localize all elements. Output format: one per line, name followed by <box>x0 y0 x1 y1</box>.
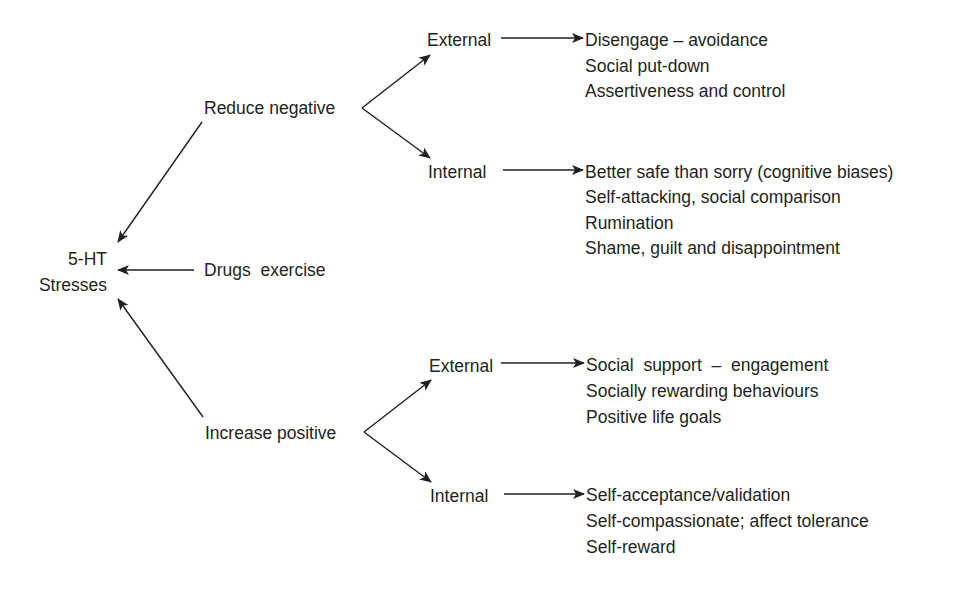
arrow-increase-to-external <box>364 380 431 432</box>
drugs-exercise-node: Drugs exercise <box>204 260 326 280</box>
reduce-external-item: Social put-down <box>585 56 710 76</box>
reduce-internal-node: Internal <box>428 162 486 182</box>
arrow-reduce-to-center <box>118 122 202 242</box>
arrow-reduce-to-internal <box>362 108 430 158</box>
reduce-external-item: Assertiveness and control <box>585 81 785 101</box>
increase-external-item: Social support – engagement <box>586 355 828 375</box>
increase-internal-item: Self-compassionate; affect tolerance <box>586 511 869 531</box>
reduce-internal-item: Self-attacking, social comparison <box>585 187 841 207</box>
arrow-increase-to-center <box>118 299 203 417</box>
increase-internal-node: Internal <box>430 486 488 506</box>
center-node-5ht: 5-HT <box>30 249 107 269</box>
increase-positive-node: Increase positive <box>205 423 336 443</box>
arrow-increase-to-internal <box>364 432 431 482</box>
increase-internal-item: Self-acceptance/validation <box>586 485 790 505</box>
reduce-external-node: External <box>427 30 491 50</box>
increase-external-node: External <box>429 356 493 376</box>
increase-external-item: Socially rewarding behaviours <box>586 381 818 401</box>
arrow-reduce-to-external <box>362 55 430 108</box>
reduce-internal-item: Rumination <box>585 213 674 233</box>
center-node-stresses: Stresses <box>30 275 107 295</box>
reduce-internal-item: Better safe than sorry (cognitive biases… <box>585 162 893 182</box>
increase-external-item: Positive life goals <box>586 407 721 427</box>
reduce-negative-node: Reduce negative <box>204 98 335 118</box>
increase-internal-item: Self-reward <box>586 537 675 557</box>
reduce-internal-item: Shame, guilt and disappointment <box>585 238 840 258</box>
reduce-external-item: Disengage – avoidance <box>585 30 768 50</box>
